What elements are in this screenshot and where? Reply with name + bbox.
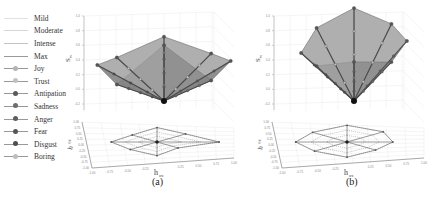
svg-text:0.00: 0.00 — [268, 143, 274, 147]
svg-text:1.00: 1.00 — [263, 120, 269, 124]
svg-text:0.6: 0.6 — [76, 43, 81, 47]
svg-text:0.4: 0.4 — [266, 58, 271, 62]
svg-text:1.00: 1.00 — [73, 120, 79, 124]
svg-text:h: h — [66, 145, 75, 151]
svg-text:-0.25: -0.25 — [268, 149, 275, 153]
svg-text:-0.50: -0.50 — [270, 155, 277, 159]
svg-text:ox: ox — [256, 138, 262, 144]
svg-text:0.50: 0.50 — [266, 132, 272, 136]
svg-text:1.00: 1.00 — [421, 161, 427, 165]
svg-text:-0.50: -0.50 — [314, 169, 321, 173]
svg-text:0.50: 0.50 — [196, 164, 202, 168]
svg-text:-0.75: -0.75 — [271, 160, 278, 164]
svg-text:-0.75: -0.75 — [296, 170, 303, 174]
panel-a-plot: 1.00.80.60.40.20.0-0.2Sw1.000.750.500.25… — [64, 12, 237, 178]
svg-text:-0.25: -0.25 — [142, 167, 149, 171]
svg-text:0.0: 0.0 — [266, 87, 271, 91]
svg-text:-0.2: -0.2 — [75, 102, 81, 106]
svg-text:0.25: 0.25 — [77, 137, 83, 141]
svg-text:-0.2: -0.2 — [265, 102, 271, 106]
panel-b-plot: 1.00.80.60.40.20.0-0.2Sw1.000.750.500.25… — [254, 6, 427, 178]
svg-text:0.25: 0.25 — [267, 137, 273, 141]
svg-text:0.75: 0.75 — [264, 126, 270, 130]
svg-text:ox: ox — [66, 138, 72, 144]
svg-text:0.8: 0.8 — [76, 29, 81, 33]
svg-text:0.25: 0.25 — [178, 165, 184, 169]
svg-text:-0.25: -0.25 — [332, 167, 339, 171]
svg-text:-1.00: -1.00 — [279, 171, 286, 175]
panel-b-caption: (b) — [346, 176, 358, 187]
svg-text:0.8: 0.8 — [266, 29, 271, 33]
svg-text:0.75: 0.75 — [403, 162, 409, 166]
svg-text:0.50: 0.50 — [76, 132, 82, 136]
panel-a-caption: (a) — [152, 176, 163, 187]
svg-text:0.75: 0.75 — [74, 126, 80, 130]
svg-text:h: h — [256, 145, 265, 151]
svg-text:-0.75: -0.75 — [81, 160, 88, 164]
svg-text:w: w — [68, 54, 73, 58]
svg-text:w: w — [258, 54, 263, 58]
svg-text:0.50: 0.50 — [386, 164, 392, 168]
svg-text:1.00: 1.00 — [231, 161, 237, 165]
svg-text:0.6: 0.6 — [266, 43, 271, 47]
svg-text:0.0: 0.0 — [76, 87, 81, 91]
svg-text:-1.00: -1.00 — [89, 171, 96, 175]
svg-text:-0.75: -0.75 — [106, 170, 113, 174]
svg-text:-0.25: -0.25 — [78, 149, 85, 153]
svg-text:1.0: 1.0 — [76, 14, 81, 18]
svg-text:-1.00: -1.00 — [272, 166, 279, 170]
svg-text:1.0: 1.0 — [266, 14, 271, 18]
svg-text:0.25: 0.25 — [368, 165, 374, 169]
figure-canvas: 1.00.80.60.40.20.0-0.2Sw1.000.750.500.25… — [0, 0, 439, 197]
svg-text:0.2: 0.2 — [266, 73, 271, 77]
svg-text:-0.50: -0.50 — [80, 155, 87, 159]
svg-text:-1.00: -1.00 — [82, 166, 89, 170]
svg-text:0.4: 0.4 — [76, 58, 81, 62]
svg-text:0.75: 0.75 — [213, 162, 219, 166]
svg-text:-0.50: -0.50 — [124, 169, 131, 173]
svg-text:0.00: 0.00 — [78, 143, 84, 147]
svg-text:0.2: 0.2 — [76, 73, 81, 77]
